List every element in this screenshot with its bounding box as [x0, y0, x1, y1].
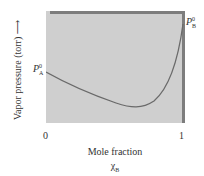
x-axis-label: Mole fraction	[88, 146, 143, 157]
plot-area	[46, 11, 185, 123]
x-tick-1: 1	[179, 130, 184, 141]
pb0-label: P0B	[186, 16, 196, 30]
x-tick-0: 0	[43, 130, 48, 141]
pa0-label: P0A	[33, 63, 43, 77]
y-axis-label: Vapor pressure (torr) ⟶	[12, 20, 23, 120]
vapor-pressure-curve	[46, 11, 185, 123]
x-axis-symbol: χB	[111, 160, 119, 173]
